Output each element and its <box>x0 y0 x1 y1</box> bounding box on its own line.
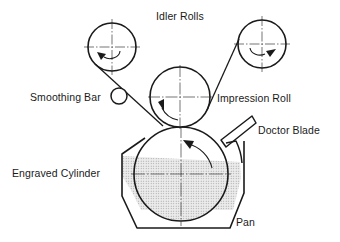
label-smoothing-bar: Smoothing Bar <box>30 92 101 103</box>
idler-roll-left <box>84 19 140 75</box>
label-engraved-cylinder: Engraved Cylinder <box>12 168 100 179</box>
label-pan: Pan <box>236 217 255 228</box>
impression-roll <box>148 65 212 129</box>
label-impression-roll: Impression Roll <box>217 93 291 104</box>
smoothing-bar <box>111 88 127 104</box>
doctor-blade <box>221 116 256 163</box>
engraved-cylinder <box>131 124 231 226</box>
idler-roll-right <box>234 16 290 72</box>
label-idler-rolls: Idler Rolls <box>156 11 204 22</box>
label-doctor-blade: Doctor Blade <box>258 125 320 136</box>
rotation-arrow-icon <box>183 140 194 149</box>
gravure-diagram <box>0 0 340 242</box>
